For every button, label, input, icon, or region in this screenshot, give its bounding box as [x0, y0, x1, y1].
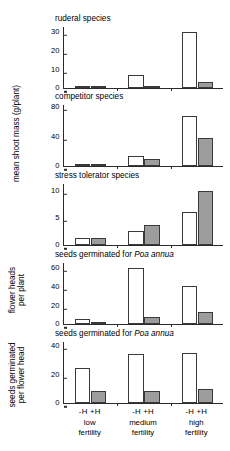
bar-minus-h: [128, 268, 144, 324]
y-axis-tick-label: 0: [55, 320, 64, 328]
x-axis-fertility-level: low: [63, 418, 116, 428]
x-axis-group-tick: [171, 88, 172, 91]
bar-minus-h: [128, 156, 144, 166]
x-axis-label-minus-h: -H: [132, 407, 141, 416]
bar-plus-h: [91, 391, 107, 403]
plot-area: 04080: [63, 105, 223, 167]
x-axis-group-tick: [171, 166, 172, 169]
x-axis-label-plus-h: +H: [143, 407, 154, 416]
bar-plus-h: [144, 317, 160, 325]
y-axis-label-shoot-mass: mean shoot mass (g/plant): [12, 85, 21, 182]
x-axis-fertility-level: high: [170, 418, 223, 428]
x-axis-treatment-pair-label: -H +H: [116, 407, 169, 417]
bar-minus-h: [182, 353, 198, 403]
bar-minus-h: [128, 75, 144, 88]
bar-plus-h: [91, 322, 107, 324]
bar-minus-h: [75, 164, 91, 166]
y-axis-tick-label: 80: [51, 103, 64, 111]
y-axis-tick-label: 40: [51, 283, 64, 291]
bar-plus-h: [91, 238, 107, 245]
x-axis-label-minus-h: -H: [186, 407, 195, 416]
panel-title: stress tolerator species: [55, 171, 139, 180]
bar-plus-h: [144, 159, 160, 166]
y-axis-tick-label: 40: [51, 342, 64, 350]
y-axis-tick-mark: [64, 308, 67, 309]
plot-area: 0510: [63, 184, 223, 246]
y-axis-tick-mark: [64, 54, 67, 55]
y-axis-tick-mark: [64, 110, 67, 111]
x-axis-label-plus-h: +H: [90, 407, 101, 416]
bar-plus-h: [144, 225, 160, 245]
bar-plus-h: [144, 391, 160, 403]
x-axis-group-tick: [117, 403, 118, 406]
panel-title-species: Poa annua: [134, 250, 174, 259]
panel-ruderal-species: ruderal species 0102030: [0, 14, 230, 92]
bar-plus-h: [198, 138, 214, 166]
y-axis-tick-label: 0: [55, 399, 64, 407]
y-axis-tick-label: 10: [51, 65, 64, 73]
y-axis-label-line2: per plant: [17, 274, 26, 306]
y-axis-tick-label: 20: [51, 370, 64, 378]
bar-minus-h: [75, 86, 91, 88]
panel-title-species: Poa annua: [134, 329, 174, 338]
y-axis-label-flower-heads: flower heads per plant: [8, 255, 26, 325]
panel-title-prefix: seeds germinated for: [55, 250, 134, 259]
bar-plus-h: [91, 164, 107, 166]
bar-minus-h: [128, 354, 144, 403]
plot-area: 0204060: [63, 263, 223, 325]
figure-panel-stack: ruderal species 0102030 competitor speci…: [0, 0, 230, 451]
y-axis-tick-mark: [64, 221, 67, 222]
y-axis-tick-mark: [64, 377, 67, 378]
panel-competitor-species: competitor species 04080: [0, 92, 230, 170]
panel-seeds-per-flower-head: seeds germinated for Poa annua 02040: [0, 329, 230, 407]
x-axis-group-tick: [117, 166, 118, 169]
bar-plus-h: [198, 82, 214, 88]
bar-minus-h: [75, 368, 91, 403]
panel-title: competitor species: [55, 92, 123, 101]
x-axis: -H +Hlowfertility-H +Hmediumfertility-H …: [0, 407, 230, 451]
y-axis-tick-label: 0: [55, 84, 64, 92]
bar-plus-h: [198, 389, 214, 403]
y-axis-label-line1: seeds germinated: [8, 342, 17, 407]
y-axis-tick-label: 20: [51, 301, 64, 309]
y-axis-label-line1: flower heads: [8, 267, 17, 313]
x-axis-group-3: -H +Hhighfertility: [170, 407, 223, 438]
bar-plus-h: [198, 191, 214, 245]
bar-minus-h: [75, 319, 91, 324]
x-axis-group-2: -H +Hmediumfertility: [116, 407, 169, 438]
y-axis-tick-mark: [64, 72, 67, 73]
y-axis-tick-mark: [64, 271, 67, 272]
y-axis-tick-label: 5: [55, 214, 64, 222]
plot-area: 02040: [63, 342, 223, 404]
bar-plus-h: [144, 86, 160, 88]
y-axis-tick-mark: [64, 194, 67, 195]
y-axis-tick-mark: [64, 35, 67, 36]
y-axis-tick-label: 0: [55, 241, 64, 249]
x-axis-fertility-word: fertility: [63, 428, 116, 438]
bar-minus-h: [182, 32, 198, 88]
x-axis-treatment-pair-label: -H +H: [63, 407, 116, 417]
bar-minus-h: [128, 231, 144, 245]
plot-area: 0102030: [63, 27, 223, 89]
y-axis-tick-mark: [64, 349, 67, 350]
bar-minus-h: [75, 238, 91, 245]
y-axis-tick-label: 30: [51, 28, 64, 36]
y-axis-tick-label: 20: [51, 47, 64, 55]
x-axis-label-minus-h: -H: [79, 407, 88, 416]
x-axis-fertility-level: medium: [116, 418, 169, 428]
x-axis-group-tick: [171, 403, 172, 406]
y-axis-tick-label: 10: [51, 187, 64, 195]
x-axis-fertility-word: fertility: [170, 428, 223, 438]
bar-plus-h: [198, 312, 214, 324]
y-axis-tick-label: 60: [51, 264, 64, 272]
bar-minus-h: [182, 286, 198, 325]
x-axis-treatment-pair-label: -H +H: [170, 407, 223, 417]
panel-flower-heads-per-plant: seeds germinated for Poa annua 0204060: [0, 250, 230, 328]
y-axis-tick-label: 40: [51, 133, 64, 141]
y-axis-tick-label: 0: [55, 162, 64, 170]
x-axis-label-plus-h: +H: [197, 407, 208, 416]
x-axis-group-tick: [117, 324, 118, 327]
y-axis-tick-mark: [64, 290, 67, 291]
y-axis-label-seeds-per-head: seeds germinated per flower head: [8, 340, 26, 410]
x-axis-group-tick: [171, 245, 172, 248]
